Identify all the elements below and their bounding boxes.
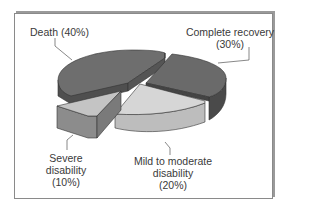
label-severe-disability: Severe disability (10%) xyxy=(38,152,94,188)
label-mild-moderate: Mild to moderate disability (20%) xyxy=(128,155,218,191)
label-complete-recovery: Complete recovery (30%) xyxy=(185,26,275,50)
label-death: Death (40%) xyxy=(30,26,89,38)
